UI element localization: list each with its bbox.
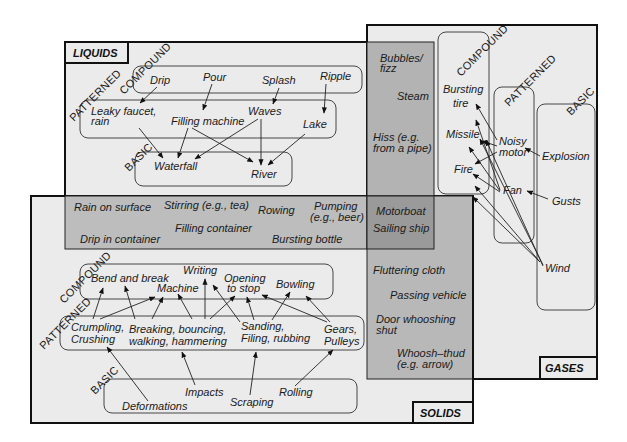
crumpling: Crumpling,: [71, 321, 124, 333]
rolling: Rolling: [279, 386, 314, 398]
liquid-waves: Waves: [248, 105, 282, 117]
impacts: Impacts: [185, 386, 224, 398]
liquids-title-box: LIQUIDS: [65, 42, 128, 63]
liquid-river: River: [251, 168, 278, 180]
gears: Gears,: [324, 323, 357, 335]
liquid-filling-machine: Filling machine: [171, 115, 244, 127]
noisy-motor-line2: motor: [499, 146, 528, 158]
whoosh-thud-line2: (e.g. arrow): [397, 358, 454, 370]
machine: Machine: [157, 282, 199, 294]
sound-taxonomy-diagram: LIQUIDS GASES SOLIDS COMPOUND PATTERNED …: [0, 0, 627, 442]
explosion: Explosion: [542, 150, 590, 162]
stirring: Stirring (e.g., tea): [164, 199, 249, 211]
sanding: Sanding,: [241, 320, 284, 332]
drip-in-container: Drip in container: [80, 233, 161, 245]
gases-title: GASES: [545, 362, 584, 374]
sailing-ship: Sailing ship: [373, 222, 429, 234]
bursting-bottle: Bursting bottle: [272, 233, 342, 245]
bubbles-fizz-line2: fizz: [380, 62, 397, 74]
rowing: Rowing: [258, 204, 296, 216]
breaking-bouncing: Breaking, bouncing,: [129, 323, 226, 335]
wind: Wind: [545, 262, 571, 274]
opening-to-stop-line2: to stop: [227, 282, 260, 294]
filing-rubbing: Filing, rubbing: [241, 332, 311, 344]
fluttering-cloth: Fluttering cloth: [373, 264, 445, 276]
solids-title: SOLIDS: [420, 407, 462, 419]
liquid-waterfall: Waterfall: [154, 160, 198, 172]
solids-title-box: SOLIDS: [413, 402, 473, 423]
gusts: Gusts: [552, 195, 581, 207]
bowling: Bowling: [276, 278, 315, 290]
motorboat: Motorboat: [376, 205, 426, 217]
liquids-title: LIQUIDS: [73, 47, 118, 59]
deformations: Deformations: [122, 400, 188, 412]
door-whooshing-line2: shut: [376, 324, 398, 336]
walking-hammering: walking, hammering: [129, 335, 228, 347]
liquid-drip: Drip: [150, 74, 170, 86]
gases-title-box: GASES: [540, 357, 597, 379]
liquid-lake: Lake: [303, 118, 327, 130]
scraping: Scraping: [230, 396, 274, 408]
steam: Steam: [397, 90, 429, 102]
liquid-splash: Splash: [262, 74, 296, 86]
filling-container: Filling container: [175, 222, 253, 234]
liquid-pour: Pour: [203, 71, 228, 83]
missile: Missile: [446, 128, 480, 140]
passing-vehicle: Passing vehicle: [390, 289, 466, 301]
writing: Writing: [183, 264, 218, 276]
liquid-ripple: Ripple: [320, 70, 351, 82]
bursting-tire-line2: tire: [453, 97, 468, 109]
hiss-line2: from a pipe): [373, 142, 432, 154]
fire: Fire: [454, 163, 473, 175]
pumping-line2: (e.g., beer): [310, 211, 364, 223]
liquid-rain: rain: [91, 115, 109, 127]
pulleys: Pulleys: [324, 335, 360, 347]
bursting-tire-line1: Bursting: [443, 83, 484, 95]
rain-on-surface: Rain on surface: [74, 201, 151, 213]
liquid-gas-overlap: [367, 42, 434, 196]
crushing: Crushing: [71, 333, 116, 345]
